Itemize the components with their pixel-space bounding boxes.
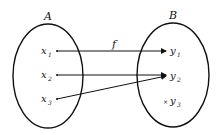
svg-text:1: 1: [48, 51, 52, 58]
element-y1: y 1: [169, 45, 181, 58]
set-a-label: A: [43, 10, 52, 23]
svg-text:2: 2: [47, 75, 52, 82]
svg-text:2: 2: [176, 76, 181, 83]
svg-text:x: x: [41, 93, 47, 104]
svg-text:3: 3: [177, 101, 181, 108]
element-y3: × y 3: [163, 95, 181, 108]
svg-text:1: 1: [177, 51, 181, 58]
svg-text:×: ×: [163, 98, 168, 105]
mapping-diagram: A B x 1 x 2 x 3 y 1 y 2 × y 3 f: [0, 0, 219, 135]
svg-text:y: y: [169, 95, 176, 106]
function-label: f: [111, 38, 118, 51]
element-x1: x 1: [41, 45, 58, 58]
svg-text:x: x: [41, 45, 47, 56]
svg-text:y: y: [169, 45, 176, 56]
element-x3: x 3: [41, 93, 58, 106]
svg-text:y: y: [169, 70, 176, 81]
element-x2: x 2: [41, 69, 58, 82]
set-b-label: B: [168, 9, 177, 22]
element-y2: y 2: [169, 70, 181, 83]
arrow-x3-y2: [57, 76, 166, 99]
svg-text:3: 3: [48, 99, 52, 106]
svg-text:x: x: [41, 69, 47, 80]
